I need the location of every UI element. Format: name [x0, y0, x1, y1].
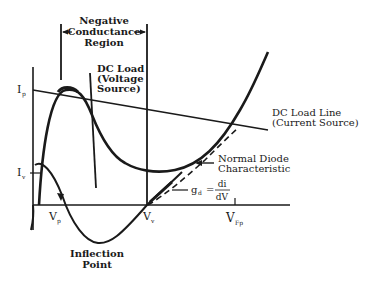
gd-denominator: dV [216, 192, 229, 202]
iv-label: I [17, 166, 21, 179]
gd-symbol: g [191, 184, 198, 195]
gd-formula: g d = di dV [191, 179, 230, 202]
inflection-label-2: Point [82, 259, 112, 270]
vfp-label: V [225, 211, 235, 225]
ncr-arrowhead-right [140, 30, 146, 35]
vv-sub: v [150, 217, 155, 224]
gd-numerator: di [218, 179, 227, 189]
region-label-2: Conductance [67, 26, 140, 37]
ip-label: I [17, 83, 21, 96]
vfp-sub: Fp [235, 219, 243, 227]
dc-load-voltage-label-3: Source) [97, 83, 141, 94]
dc-load-line-voltage [90, 73, 96, 188]
tunnel-diode-diagram: Negative Conductance Region DC Load (Vol… [0, 0, 368, 283]
ip-sub: p [22, 90, 26, 98]
dc-load-current-label-2: (Current Source) [272, 117, 359, 128]
iv-sub: v [21, 173, 26, 180]
lower-curve [35, 164, 182, 243]
gd-equals: = [206, 184, 214, 195]
gd-tangent [150, 182, 172, 202]
normal-diode-label-2: Characteristic [218, 163, 291, 174]
tunnel-diode-curve [39, 52, 268, 205]
region-label-3: Region [84, 37, 124, 48]
gd-sub: d [198, 189, 202, 196]
vp-sub: p [57, 217, 61, 225]
region-label-1: Negative [79, 15, 129, 26]
inflection-label-1: Inflection [70, 248, 125, 259]
